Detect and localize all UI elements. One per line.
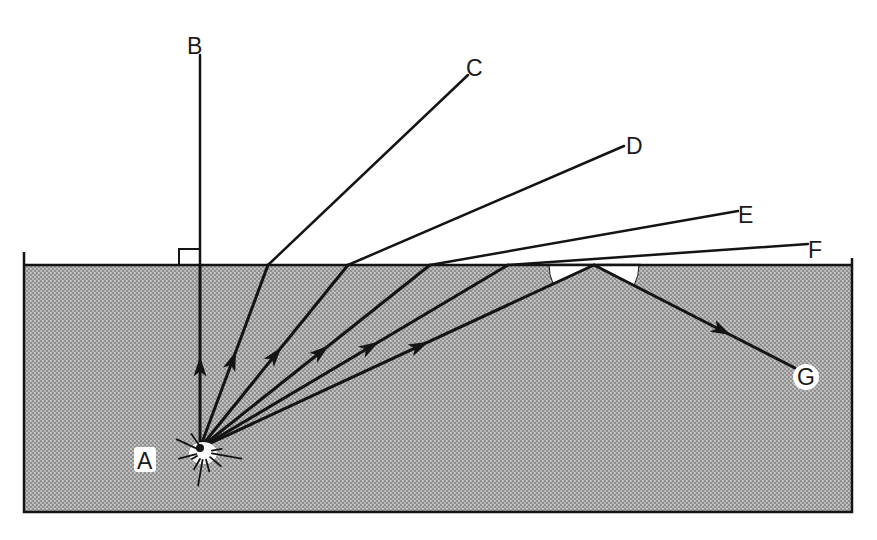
diagram-canvas: A B C D E F G	[0, 0, 877, 540]
label-d: D	[626, 133, 643, 159]
label-c: C	[466, 55, 483, 81]
refraction-diagram: A B C D E F G	[0, 0, 877, 540]
water-body	[24, 265, 852, 512]
label-g: G	[797, 364, 815, 390]
right-angle-marker-icon	[179, 249, 200, 265]
label-f: F	[808, 237, 822, 263]
label-e: E	[738, 202, 753, 228]
label-a: A	[137, 448, 153, 474]
label-b: B	[187, 33, 202, 59]
